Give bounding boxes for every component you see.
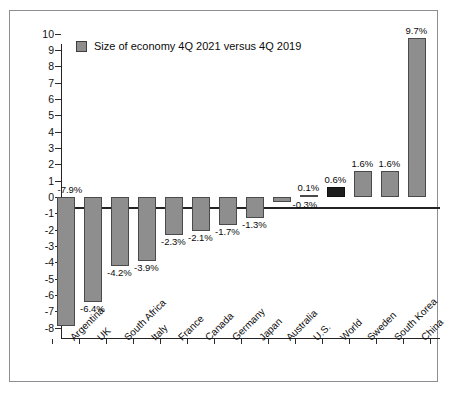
y-tick-label: -4 bbox=[12, 257, 54, 267]
y-tick-label: 10 bbox=[12, 29, 54, 39]
category-label: UK bbox=[95, 325, 113, 343]
x-tick bbox=[133, 339, 134, 344]
y-tick-label: 4 bbox=[12, 127, 54, 137]
x-tick bbox=[79, 339, 80, 344]
y-tick bbox=[55, 328, 61, 329]
x-tick bbox=[268, 339, 269, 344]
y-tick-label: -6 bbox=[12, 290, 54, 300]
y-tick bbox=[55, 132, 61, 133]
bar-value-label: -7.9% bbox=[58, 185, 83, 195]
y-tick bbox=[55, 50, 61, 51]
bar-value-label: -0.3% bbox=[293, 200, 318, 210]
y-tick bbox=[55, 181, 61, 182]
y-tick-label: -7 bbox=[12, 306, 54, 316]
y-tick-label: 0 bbox=[12, 192, 54, 202]
bar[interactable] bbox=[327, 187, 345, 197]
y-tick-label: -3 bbox=[12, 241, 54, 251]
bar-value-label: 0.1% bbox=[298, 183, 320, 193]
bar-value-label: -2.3% bbox=[161, 237, 186, 247]
y-tick-label: -5 bbox=[12, 274, 54, 284]
chart-legend: Size of economy 4Q 2021 versus 4Q 2019 bbox=[76, 40, 301, 52]
x-tick bbox=[430, 339, 431, 344]
bar[interactable] bbox=[354, 171, 372, 197]
bar[interactable] bbox=[57, 197, 75, 326]
bar-value-label: -1.3% bbox=[242, 220, 267, 230]
y-tick-label: 9 bbox=[12, 45, 54, 55]
bar[interactable] bbox=[246, 197, 264, 218]
bar-value-label: 9.7% bbox=[406, 26, 428, 36]
x-tick bbox=[160, 339, 161, 344]
legend-label: Size of economy 4Q 2021 versus 4Q 2019 bbox=[94, 40, 301, 52]
x-tick bbox=[52, 339, 53, 344]
y-tick bbox=[55, 83, 61, 84]
y-tick-label: 6 bbox=[12, 94, 54, 104]
y-tick-label: 8 bbox=[12, 61, 54, 71]
bar[interactable] bbox=[138, 197, 156, 261]
y-tick-label: 1 bbox=[12, 176, 54, 186]
x-tick bbox=[376, 339, 377, 344]
bar-value-label: -3.9% bbox=[134, 263, 159, 273]
y-tick-label: 2 bbox=[12, 159, 54, 169]
y-tick-label: -8 bbox=[12, 323, 54, 333]
x-axis-line bbox=[61, 338, 440, 339]
y-tick bbox=[55, 34, 61, 35]
x-tick bbox=[187, 339, 188, 344]
plot-area: Size of economy 4Q 2021 versus 4Q 2019 1… bbox=[10, 11, 437, 381]
x-tick bbox=[349, 339, 350, 344]
bar-value-label: -4.2% bbox=[107, 268, 132, 278]
y-tick-label: -2 bbox=[12, 225, 54, 235]
x-tick bbox=[322, 339, 323, 344]
legend-swatch-icon bbox=[76, 41, 87, 52]
bar-value-label: 1.6% bbox=[379, 159, 401, 169]
bar-value-label: 1.6% bbox=[352, 159, 374, 169]
x-tick bbox=[106, 339, 107, 344]
bar[interactable] bbox=[192, 197, 210, 231]
bar-value-label: -2.1% bbox=[188, 233, 213, 243]
y-tick bbox=[55, 115, 61, 116]
bar-value-label: -1.7% bbox=[215, 227, 240, 237]
bar[interactable] bbox=[219, 197, 237, 225]
x-tick bbox=[403, 339, 404, 344]
bar[interactable] bbox=[111, 197, 129, 266]
y-tick-label: 5 bbox=[12, 110, 54, 120]
y-tick bbox=[55, 99, 61, 100]
bar[interactable] bbox=[381, 171, 399, 197]
bar[interactable] bbox=[408, 38, 426, 197]
bar[interactable] bbox=[84, 197, 102, 302]
y-tick bbox=[55, 66, 61, 67]
y-tick bbox=[55, 164, 61, 165]
bar[interactable] bbox=[165, 197, 183, 235]
y-tick-label: 3 bbox=[12, 143, 54, 153]
bar[interactable] bbox=[273, 197, 291, 202]
bar-value-label: 0.6% bbox=[325, 175, 347, 185]
y-tick-label: 7 bbox=[12, 78, 54, 88]
chart-frame: Size of economy 4Q 2021 versus 4Q 2019 1… bbox=[9, 10, 438, 382]
x-tick bbox=[295, 339, 296, 344]
y-tick bbox=[55, 148, 61, 149]
bar[interactable] bbox=[300, 195, 318, 197]
x-tick bbox=[214, 339, 215, 344]
x-tick bbox=[241, 339, 242, 344]
category-label: U.S. bbox=[311, 321, 333, 343]
category-label: Italy bbox=[149, 322, 170, 343]
y-tick-label: -1 bbox=[12, 208, 54, 218]
